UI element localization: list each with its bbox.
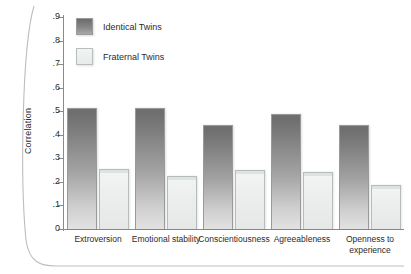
legend-swatch-fraternal-icon [76,48,93,65]
bar-identical [339,125,369,229]
y-axis-tick-label: .6 [52,81,60,94]
y-axis-tick-label: .3 [52,151,60,164]
bar-identical [203,125,233,229]
legend-label-identical: Identical Twins [103,22,162,32]
bar-top-cap [204,126,232,129]
y-axis-tick-label: .2 [52,175,60,188]
bar-top-cap [168,177,196,180]
bar-identical [67,108,97,229]
y-axis-tick-label: .9 [52,10,60,23]
bar-top-cap [100,170,128,173]
twin-correlation-chart: Correlation .9.8.7.6.5.4.3.2.10 Extrover… [0,0,411,274]
bar-top-cap [304,173,332,176]
bar-fraternal [99,169,129,229]
y-axis-tick-label: .4 [52,128,60,141]
bar-top-cap [340,126,368,129]
y-axis-tick-label: .8 [52,34,60,47]
bar-fraternal [167,176,197,229]
bar-fraternal [235,170,265,229]
x-axis-label: Openness to experience [330,234,410,256]
bar-top-cap [68,109,96,112]
bar-fraternal [371,185,401,229]
y-axis-title-text: Correlation [23,108,33,154]
bar-identical [135,108,165,229]
y-axis-title: Correlation [22,96,34,166]
legend-item-fraternal: Fraternal Twins [76,48,164,65]
bar-top-cap [272,115,300,118]
y-axis-tick: 0 [63,229,69,230]
bar-top-cap [136,109,164,112]
bar-fraternal [303,172,333,229]
legend-label-fraternal: Fraternal Twins [103,52,164,62]
y-axis-tick-label: .1 [52,198,60,211]
legend: Identical Twins Fraternal Twins [76,18,164,78]
bar-identical [271,114,301,229]
bar-top-cap [372,186,400,189]
bar-top-cap [236,171,264,174]
legend-swatch-identical-icon [76,18,93,35]
x-axis-line [63,229,404,230]
y-axis-tick-label: .7 [52,57,60,70]
legend-item-identical: Identical Twins [76,18,164,35]
y-axis-tick-label: .5 [52,104,60,117]
